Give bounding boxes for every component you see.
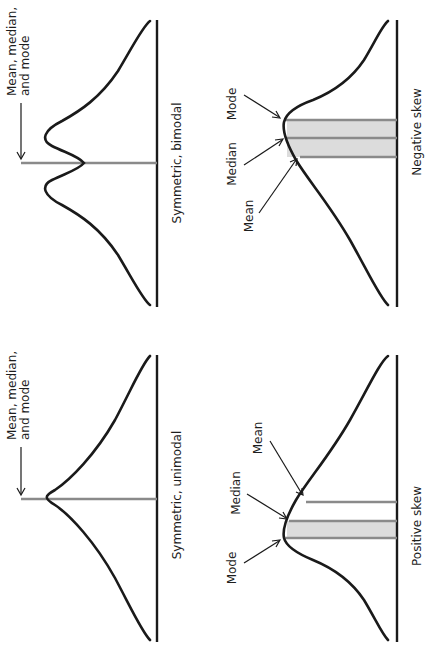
mode-arrow [244,95,279,117]
panel-caption: Symmetric, unimodal [170,431,184,560]
mean-label: Mean [251,422,265,455]
mean-arrow [270,441,302,494]
negative-skew-curve [284,21,388,305]
arrow-head-icon [290,159,297,166]
panel-caption: Negative skew [410,88,424,176]
panel-symmetric-bimodal: Mean, median, and mode Symmetric, bimoda… [5,7,184,307]
annotation-mean-median-mode: Mean, median, [5,7,19,96]
panel-caption: Symmetric, bimodal [170,103,184,224]
distribution-shapes-figure: Mean, median, and mode Symmetric, bimoda… [0,0,431,672]
annotation-and-mode: and mode [18,380,32,440]
panel-positive-skew: Mode Median Mean Positive skew [225,355,424,642]
median-to-mode-band [287,521,397,538]
median-arrow [247,494,286,518]
mean-label: Mean [242,200,256,233]
annotation-mean-median-mode: Mean, median, [5,351,19,440]
panel-symmetric-unimodal: Mean, median, and mode Symmetric, unimod… [5,351,184,642]
median-arrow [244,140,282,165]
mode-label: Mode [225,88,239,121]
panel-negative-skew: Mode Median Mean Negative skew [225,20,424,307]
annotation-and-mode: and mode [18,36,32,96]
median-label: Median [229,471,243,515]
median-label: Median [225,142,239,186]
mode-arrow [244,541,279,563]
mean-arrow [259,160,296,213]
mode-label: Mode [225,552,239,585]
positive-skew-curve [284,356,388,640]
panel-caption: Positive skew [410,486,424,566]
